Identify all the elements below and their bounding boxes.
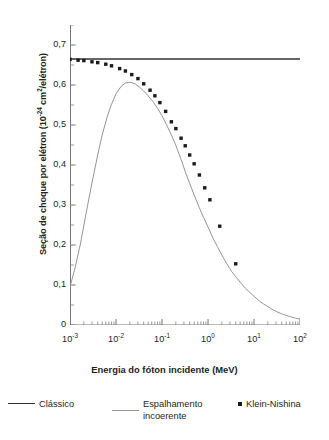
- data-point-marker: [164, 110, 167, 113]
- data-point-marker: [198, 173, 201, 176]
- y-axis-tick-label: 0,1: [53, 279, 66, 289]
- legend-line-swatch-classico: [8, 403, 35, 404]
- data-point-marker: [104, 63, 107, 66]
- x-axis-tick-exponent: -2: [118, 332, 124, 339]
- x-axis-tick-exponent: -3: [72, 332, 78, 339]
- y-axis-tick-label: 0,7: [53, 39, 66, 49]
- data-point-marker: [188, 153, 191, 156]
- x-axis-tick-exponent: 1: [257, 332, 261, 339]
- plot-svg: [70, 25, 300, 325]
- data-point-marker: [208, 198, 211, 201]
- data-point-marker: [76, 59, 79, 62]
- y-axis-tickmarks: [71, 25, 76, 325]
- legend-label-incoerente: Espalhamentoincoerente: [143, 398, 215, 422]
- data-point-marker: [70, 58, 72, 61]
- axis-lines: [71, 25, 301, 325]
- x-axis-tick-label: 101: [247, 332, 261, 344]
- legend-label-incoerente-line1: Espalhamento: [143, 399, 202, 409]
- data-point-marker: [90, 60, 93, 63]
- x-axis-title: Energia do fóton incidente (MeV): [0, 364, 329, 375]
- legend-line-swatch-incoerente: [112, 410, 139, 411]
- data-point-marker: [218, 225, 221, 228]
- data-point-marker: [110, 64, 113, 67]
- x-axis-tick-label: 100: [201, 332, 215, 344]
- x-axis-tick-mantissa: 10: [108, 334, 118, 344]
- series-line-espalhamento-incoerente: [70, 82, 300, 319]
- data-point-marker: [174, 127, 177, 130]
- legend-marker-swatch-klein-nishina: [238, 402, 242, 406]
- x-axis-tick-mantissa: 10: [62, 334, 72, 344]
- data-point-marker: [82, 59, 85, 62]
- data-point-marker: [184, 144, 187, 147]
- legend-item-espalhamento-incoerente: Espalhamentoincoerente: [112, 398, 220, 422]
- legend-label-incoerente-line2: incoerente: [143, 411, 186, 421]
- data-point-marker: [148, 89, 151, 92]
- data-point-marker: [124, 69, 127, 72]
- x-axis-tick-label: 102: [293, 332, 307, 344]
- data-point-marker: [96, 61, 99, 64]
- x-axis-tick-exponent: 0: [211, 332, 215, 339]
- data-point-marker: [170, 120, 173, 123]
- data-point-marker: [153, 94, 156, 97]
- data-point-marker: [203, 186, 206, 189]
- x-axis-tick-exponent: -1: [164, 332, 170, 339]
- data-point-marker: [158, 101, 161, 104]
- data-point-marker: [130, 73, 133, 76]
- series-markers-klein-nishina: [70, 58, 237, 266]
- y-axis-tick-label: 0,4: [53, 159, 66, 169]
- data-point-marker: [179, 137, 182, 140]
- chart-figure: Seção de choque por elétron (10-24 cm2/e…: [0, 0, 329, 392]
- data-point-marker: [136, 77, 139, 80]
- x-axis-tick-label: 10-2: [108, 332, 124, 344]
- legend-label-klein-nishina: Klein-Nishina: [246, 399, 301, 409]
- legend-label-classico: Clássico: [39, 399, 74, 409]
- data-series-layer: [70, 58, 300, 319]
- x-axis-tick-mantissa: 10: [201, 334, 211, 344]
- x-axis-tick-mantissa: 10: [247, 334, 257, 344]
- y-axis-tick-label: 0,6: [53, 79, 66, 89]
- x-axis-tick-mantissa: 10: [293, 334, 303, 344]
- data-point-marker: [192, 162, 195, 165]
- y-axis-tick-label: 0,2: [53, 239, 66, 249]
- y-axis-tick-label: 0,5: [53, 119, 66, 129]
- data-point-marker: [234, 262, 237, 265]
- x-axis-tick-labels: 10-310-210-1100101102: [0, 332, 329, 350]
- y-axis-tick-label: 0: [61, 319, 66, 329]
- x-axis-tick-label: 10-3: [62, 332, 78, 344]
- x-axis-tickmarks: [70, 319, 300, 325]
- x-axis-tick-exponent: 2: [303, 332, 307, 339]
- chart-legend: Clássico Espalhamentoincoerente Klein-Ni…: [0, 396, 329, 440]
- x-axis-tick-mantissa: 10: [154, 334, 164, 344]
- y-axis-tick-label: 0,3: [53, 199, 66, 209]
- plot-area: [70, 25, 300, 325]
- figure-root: Seção de choque por elétron (10-24 cm2/e…: [0, 0, 329, 440]
- legend-item-classico: Clássico: [8, 398, 74, 409]
- data-point-marker: [142, 82, 145, 85]
- legend-item-klein-nishina: Klein-Nishina: [228, 398, 301, 409]
- data-point-marker: [118, 67, 121, 70]
- x-axis-tick-label: 10-1: [154, 332, 170, 344]
